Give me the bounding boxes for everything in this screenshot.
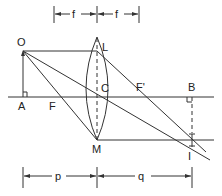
focal-length-dimension (54, 6, 139, 23)
label-p: p (55, 170, 61, 182)
label-f: F (49, 100, 56, 112)
label-a: A (18, 100, 26, 112)
distance-dimension (23, 167, 192, 188)
label-f-left: f (72, 8, 76, 20)
right-angle-mark-b (187, 97, 192, 102)
label-q: q (138, 170, 144, 182)
label-i: I (188, 150, 191, 162)
label-o: O (17, 36, 26, 48)
label-b: B (188, 81, 195, 93)
label-m: M (92, 143, 101, 155)
lens-diagram: f f O A L C M F F' B I p q (0, 0, 222, 196)
label-c: C (101, 82, 109, 94)
label-f-right: f (115, 8, 119, 20)
right-angle-mark-a (23, 92, 27, 97)
label-f-prime: F' (136, 81, 145, 93)
label-l: L (102, 41, 108, 53)
